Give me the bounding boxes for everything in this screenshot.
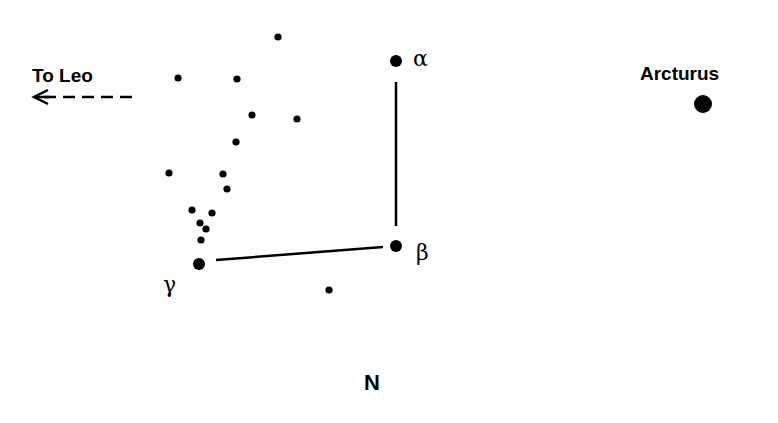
star-minor	[208, 209, 215, 216]
star-minor	[219, 170, 226, 177]
star-minor	[325, 286, 332, 293]
star-minor	[174, 74, 181, 81]
star-arcturus	[694, 95, 712, 113]
star-minor	[202, 225, 209, 232]
star-minor	[232, 138, 239, 145]
star-minor	[196, 219, 203, 226]
star-minor	[233, 75, 240, 82]
star-minor	[223, 185, 230, 192]
star-gamma	[193, 258, 205, 270]
to-leo-label: To Leo	[32, 66, 93, 85]
line-gamma-beta	[216, 247, 383, 260]
star-minor	[293, 115, 300, 122]
star-beta	[390, 240, 402, 252]
constellation-lines	[216, 82, 396, 260]
star-minor	[188, 206, 195, 213]
star-minor	[248, 111, 255, 118]
star-minor	[197, 236, 204, 243]
star-alpha	[390, 55, 402, 67]
star-minor	[274, 33, 281, 40]
stars	[165, 33, 712, 293]
arcturus-label: Arcturus	[640, 64, 719, 83]
beta-label: β	[416, 242, 429, 264]
gamma-label: γ	[163, 274, 176, 296]
alpha-label: α	[413, 48, 428, 70]
to-leo-arrow	[34, 90, 132, 104]
north-direction-label: N	[364, 372, 380, 394]
star-minor	[165, 169, 172, 176]
